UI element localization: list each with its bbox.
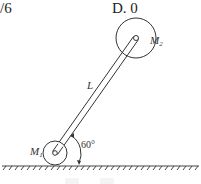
rod-label: L (86, 79, 93, 91)
pivot-top (134, 36, 139, 41)
ground (2, 166, 199, 170)
mass-m1-label: M1 (29, 145, 43, 159)
angle-label: 60° (81, 139, 95, 150)
angle-arc (72, 136, 81, 163)
mass-m2-label: M2 (149, 34, 163, 48)
rod (53, 37, 139, 155)
pivot-bottom (53, 151, 58, 156)
mechanics-diagram: M2 M1 L 60° (0, 0, 201, 184)
